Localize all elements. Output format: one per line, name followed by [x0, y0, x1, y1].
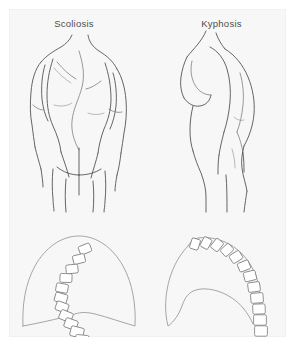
- forearm-front-line: [219, 132, 224, 155]
- kyphosis-spine-illustration: [148, 214, 286, 337]
- arm-front-line: [210, 47, 230, 132]
- left-shoulder-line: [41, 35, 72, 62]
- right-waist-crease: [88, 113, 104, 115]
- right-scapula-line: [86, 81, 101, 89]
- thigh-back-line: [244, 191, 247, 212]
- arm-back-line: [237, 73, 243, 132]
- right-hip-line: [91, 153, 98, 178]
- scoliosis-spine-svg: [9, 214, 148, 337]
- left-waist-crease: [54, 103, 72, 106]
- vertebra-stack: [189, 236, 267, 336]
- left-elbow-crease: [33, 105, 43, 110]
- scoliosis-spine-illustration: [9, 214, 148, 337]
- forearm-back-line: [237, 132, 243, 153]
- thigh-mid-line: [226, 175, 227, 212]
- vertebra-12: [255, 326, 268, 336]
- torso-right-flank: [98, 63, 111, 153]
- right-thigh-outer: [104, 171, 106, 212]
- finger-line: [232, 149, 235, 168]
- neck-back-line: [216, 33, 225, 49]
- vertebra-8: [247, 281, 260, 292]
- figure-page: Scoliosis Kyphosis: [0, 0, 295, 346]
- left-forearm-line: [35, 147, 41, 169]
- vertebra-6: [237, 260, 251, 273]
- left-scapula-line: [57, 62, 76, 79]
- vertebra-stack: [54, 243, 92, 337]
- left-hand-line: [41, 169, 43, 187]
- hand-front-line: [218, 155, 219, 174]
- breast-underline: [184, 95, 211, 106]
- right-hand-line: [115, 175, 117, 191]
- breast-contour-line: [191, 61, 211, 95]
- left-scapula-inner-line: [54, 68, 71, 83]
- kyphosis-spine-svg: [148, 214, 286, 337]
- vertebra-2: [72, 253, 86, 264]
- vertebra-1: [78, 243, 92, 256]
- elbow-crease-line: [234, 117, 244, 120]
- scoliosis-body-svg: [9, 9, 148, 214]
- chest-front-line: [181, 57, 187, 98]
- scoliosis-body-illustration: [9, 9, 148, 214]
- right-arm-outer-line: [117, 69, 126, 153]
- thigh-front-line: [193, 151, 206, 212]
- vertebra-7: [243, 270, 257, 282]
- vertebra-5: [55, 283, 68, 294]
- right-shoulder-line: [88, 35, 117, 69]
- kyphosis-body-svg: [148, 9, 286, 214]
- left-arm-outer-line: [30, 62, 41, 147]
- right-thigh-inner: [93, 181, 94, 212]
- neck-front-line: [187, 31, 206, 57]
- vertebra-3: [66, 264, 79, 274]
- right-gluteal-fold: [79, 169, 101, 175]
- kyphotic-hump-outline: [225, 49, 254, 146]
- spinal-groove-curve: [72, 51, 84, 150]
- vertebra-4: [60, 273, 72, 282]
- vertebra-10: [253, 304, 266, 314]
- left-thigh-inner: [65, 179, 66, 212]
- vertebra-11: [254, 315, 267, 325]
- hand-back-line: [243, 153, 244, 172]
- vertebra-9: [250, 293, 263, 304]
- vertebra-11: [75, 334, 89, 337]
- right-forearm-line: [117, 153, 121, 175]
- kyphosis-body-illustration: [148, 9, 286, 214]
- left-thigh-outer: [52, 169, 54, 211]
- abdomen-front-line: [190, 106, 193, 151]
- vertebra-1: [189, 238, 201, 251]
